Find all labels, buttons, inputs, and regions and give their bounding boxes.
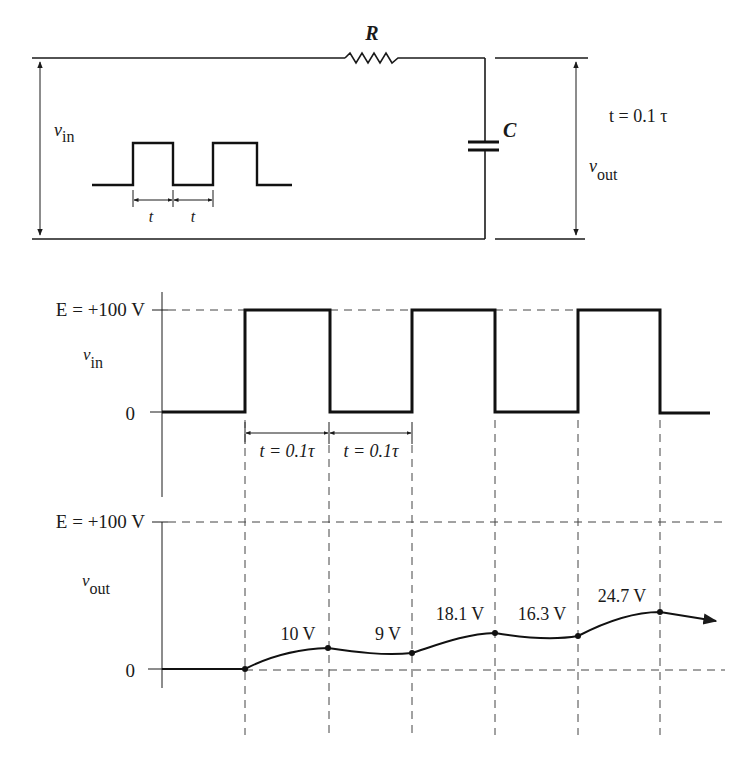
input-pulse-sketch xyxy=(92,143,292,185)
point-label: 9 V xyxy=(375,624,401,644)
pulse-width-label: t xyxy=(149,208,154,225)
point-label: 24.7 V xyxy=(598,586,647,606)
vin-top-label: E = +100 V xyxy=(56,299,145,320)
point-label: 10 V xyxy=(280,624,315,644)
capacitor-label: C xyxy=(503,119,517,141)
rc-circuit: R C vin t t vout t = 0.1 τ xyxy=(32,22,667,239)
vout-top-label: E = +100 V xyxy=(56,511,145,532)
vout-plot: E = +100 V 0 vout 10 V 9 V 18.1 V 16.3 V… xyxy=(56,511,725,688)
point-label: 16.3 V xyxy=(518,604,567,624)
rc-circuit-figure: R C vin t t vout t = 0.1 τ xyxy=(0,0,755,762)
vin-label: vin xyxy=(54,120,74,145)
vin-zero-label: 0 xyxy=(126,403,136,424)
vin-signal-label: vin xyxy=(83,345,103,371)
vout-zero-label: 0 xyxy=(126,660,136,681)
vout-label: vout xyxy=(589,156,618,183)
resistor-symbol xyxy=(345,53,402,63)
vin-square-wave xyxy=(162,310,710,413)
vin-plot: E = +100 V 0 vin t = 0.1τ t = 0.1τ xyxy=(56,292,710,497)
time-constant-condition: t = 0.1 τ xyxy=(609,106,667,126)
resistor-label: R xyxy=(364,22,378,44)
vout-signal-label: vout xyxy=(82,571,111,597)
transition-guides xyxy=(245,420,660,735)
interval-label: t = 0.1τ xyxy=(259,441,315,461)
interval-label: t = 0.1τ xyxy=(343,441,399,461)
pulse-width-label: t xyxy=(191,208,196,225)
point-label: 18.1 V xyxy=(436,604,485,624)
